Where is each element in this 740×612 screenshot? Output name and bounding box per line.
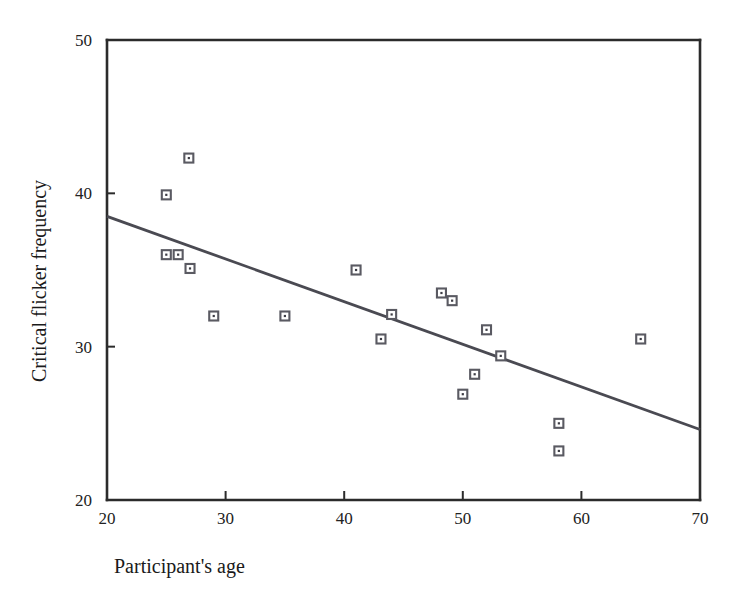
scatter-markers: [162, 154, 645, 456]
data-point: [162, 250, 171, 259]
data-point: [482, 325, 491, 334]
x-tick-label: 70: [692, 509, 709, 528]
data-point: [174, 250, 183, 259]
data-point-center-dot: [380, 338, 382, 340]
regression-trend-line: [107, 216, 700, 429]
data-point-center-dot: [440, 292, 442, 294]
y-tick-label: 50: [75, 31, 92, 50]
plot-canvas: 20304050 203040506070 Critical flicker f…: [0, 0, 740, 612]
data-point: [387, 310, 396, 319]
x-tick-label: 60: [573, 509, 590, 528]
data-point: [496, 351, 505, 360]
scatter-plot-figure: 20304050 203040506070 Critical flicker f…: [0, 0, 740, 612]
x-axis-ticks: 203040506070: [99, 491, 709, 528]
data-point-center-dot: [391, 313, 393, 315]
trend-line-path: [107, 216, 700, 429]
data-point-center-dot: [451, 300, 453, 302]
data-point-center-dot: [213, 315, 215, 317]
data-point: [352, 266, 361, 275]
data-point-center-dot: [189, 267, 191, 269]
data-point-center-dot: [165, 254, 167, 256]
data-point: [554, 446, 563, 455]
data-point-center-dot: [558, 450, 560, 452]
x-tick-label: 20: [99, 509, 116, 528]
data-point: [209, 312, 218, 321]
plot-frame: [107, 40, 700, 500]
y-tick-label: 30: [75, 338, 92, 357]
data-point: [458, 390, 467, 399]
y-tick-label: 20: [75, 491, 92, 510]
x-tick-label: 50: [454, 509, 471, 528]
data-point-center-dot: [500, 355, 502, 357]
data-point: [184, 154, 193, 163]
data-point-center-dot: [188, 157, 190, 159]
x-tick-label: 30: [217, 509, 234, 528]
data-point: [636, 335, 645, 344]
y-tick-label: 40: [75, 184, 92, 203]
y-axis-title: Critical flicker frequency: [28, 180, 51, 382]
data-point-center-dot: [485, 329, 487, 331]
data-point: [376, 335, 385, 344]
data-point-center-dot: [640, 338, 642, 340]
data-point: [470, 370, 479, 379]
data-point: [437, 289, 446, 298]
data-point: [280, 312, 289, 321]
data-point-center-dot: [474, 373, 476, 375]
data-point: [448, 296, 457, 305]
data-point: [186, 264, 195, 273]
data-point-center-dot: [165, 194, 167, 196]
data-point: [162, 190, 171, 199]
data-point-center-dot: [462, 393, 464, 395]
data-point-center-dot: [284, 315, 286, 317]
data-point-center-dot: [177, 254, 179, 256]
x-axis-title: Participant's age: [114, 555, 245, 578]
data-point-center-dot: [558, 422, 560, 424]
y-axis-ticks: 20304050: [75, 31, 115, 510]
x-tick-label: 40: [336, 509, 353, 528]
data-point: [554, 419, 563, 428]
data-point-center-dot: [355, 269, 357, 271]
